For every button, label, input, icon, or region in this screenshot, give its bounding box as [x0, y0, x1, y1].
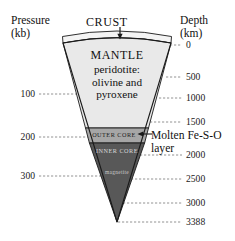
outer-core-label: OUTER CORE — [66, 131, 162, 138]
depth-tick-label: 3388 — [186, 216, 220, 227]
pressure-tick-label: 100 — [9, 88, 35, 99]
depth-tick-label: 1000 — [186, 92, 220, 103]
pressure-tick-label: 200 — [9, 131, 35, 142]
inner-core-layer — [89, 143, 144, 222]
depth-tick-label: 0 — [186, 39, 220, 50]
depth-tick-label: 1500 — [186, 116, 220, 127]
depth-tick-label: 500 — [186, 71, 220, 82]
depth-tick-label: 2000 — [186, 149, 220, 160]
inner-core-mineral-label: magnetite — [85, 169, 149, 175]
mantle-label: MANTLE — [62, 48, 172, 63]
mars-interior-diagram: Pressure (kb) Depth (km) CRUST — [0, 0, 235, 241]
mantle-composition-label: peridotite: olivine and pyroxene — [58, 63, 176, 101]
pressure-tick-label: 300 — [9, 170, 35, 181]
depth-tick-label: 3000 — [186, 197, 220, 208]
inner-core-label: INNER CORE — [72, 147, 162, 154]
depth-tick-label: 2500 — [186, 173, 220, 184]
